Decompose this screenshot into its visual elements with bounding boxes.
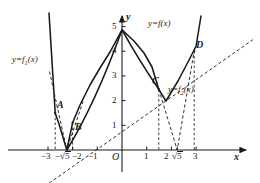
function-label-f2-head: y=f [168, 84, 181, 94]
x-tick-label-1: 1 [144, 152, 149, 161]
point-marker-d [193, 50, 195, 52]
point-label-b: B [75, 122, 82, 132]
point-label-c: C [152, 76, 159, 86]
y-axis-label: y [126, 12, 130, 22]
y-tick-label-5: 5 [112, 22, 117, 31]
y-tick-label-4: 4 [112, 46, 117, 55]
point-marker-c [158, 88, 160, 90]
point-label-d: D [196, 40, 203, 50]
point-marker-b [71, 122, 73, 124]
function-label-f1: y=f1(x) [12, 55, 38, 66]
function-label-f1-head: y=f [12, 54, 25, 64]
function-label-f2-tail: (x) [184, 84, 194, 94]
y-tick-label-1: 1 [112, 121, 117, 130]
y-tick-label-3: 3 [112, 71, 117, 80]
curve-f1 [40, 40, 253, 183]
x-tick-label-2: 2 [164, 152, 169, 161]
function-label-f2: y=f2(x) [168, 85, 194, 96]
x-tick-label-sqrt5: √5 [172, 152, 181, 161]
graph-canvas [0, 0, 260, 183]
y-tick-label-2: 2 [112, 96, 117, 105]
curve-f [49, 13, 201, 150]
x-tick-label-3: 3 [193, 152, 198, 161]
x-tick-label-neg3: −3 [41, 152, 51, 161]
function-label-f1-tail: (x) [28, 54, 38, 64]
graph-figure: x y O −3 −√5 −2 −1 1 2 √5 3 1 2 3 4 5 A … [0, 0, 260, 183]
point-marker-a [54, 112, 56, 114]
function-label-f: y=f(x) [148, 19, 171, 28]
x-tick-label-neg2: −2 [72, 152, 82, 161]
point-label-a: A [57, 100, 64, 110]
x-tick-label-neg1: −1 [88, 152, 98, 161]
origin-label: O [112, 152, 119, 162]
x-tick-label-neg-sqrt5: −√5 [55, 152, 70, 161]
x-axis-label: x [234, 152, 239, 162]
